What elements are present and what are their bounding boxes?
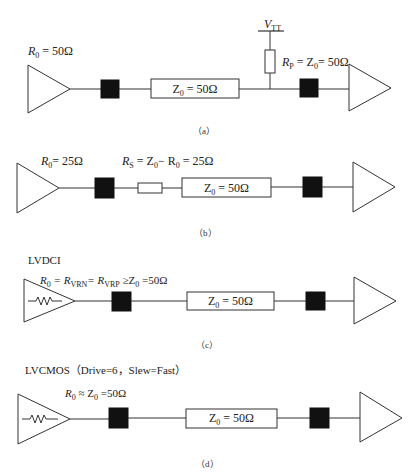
label-text: = R	[87, 274, 104, 286]
label-text: = 50Ω	[184, 82, 218, 96]
package-pin-icon	[303, 177, 322, 197]
panel-a-caption: （a）	[193, 124, 215, 137]
package-pin-icon	[101, 80, 119, 98]
label-text: ≥Z	[120, 274, 136, 286]
label-text: =50Ω	[139, 274, 167, 286]
label-text: =50Ω	[98, 387, 126, 399]
label-text: = 50Ω	[220, 411, 254, 425]
label-text: = Z	[294, 55, 314, 69]
label-symbol: Z	[172, 82, 179, 96]
receiver-buffer-icon	[353, 162, 395, 212]
line-impedance-label: Z0 = 50Ω	[182, 182, 271, 194]
driver-impedance-label: R0 = RVRN= RVRP ≥Z0 =50Ω	[40, 274, 167, 286]
lvdci-title: LVDCI	[28, 254, 61, 266]
panel-b-caption: （b）	[194, 226, 217, 239]
driver-impedance-label: R0 ≈ Z0 =50Ω	[65, 387, 126, 399]
line-impedance-label: Z0 = 50Ω	[187, 295, 274, 307]
label-text: ≈ Z	[76, 387, 94, 399]
label-sub: VRN	[70, 280, 87, 289]
package-pin-icon	[109, 408, 128, 428]
line-impedance-label: Z0 = 50Ω	[186, 412, 277, 424]
series-resistor-icon	[138, 183, 162, 193]
package-pin-icon	[95, 178, 114, 198]
label-text: − R	[158, 154, 176, 168]
package-pin-icon	[112, 292, 131, 311]
label-text: = 50Ω	[318, 55, 349, 69]
label-sub: TT	[271, 24, 281, 33]
package-pin-icon	[306, 292, 325, 310]
package-pin-icon	[300, 79, 318, 97]
vtt-rail-label: VTT	[264, 18, 281, 30]
receiver-buffer-icon	[360, 392, 402, 442]
driver-buffer-icon	[17, 163, 59, 213]
label-text: = Z	[134, 154, 154, 168]
driver-impedance-label: R0 = 50Ω	[28, 45, 73, 57]
panel-d-caption: （d）	[196, 457, 219, 470]
driver-buffer-icon	[28, 65, 70, 113]
panel-a-circuit	[28, 31, 391, 113]
receiver-buffer-icon	[349, 64, 391, 111]
parallel-resistor-icon	[265, 50, 275, 73]
label-text: = 25Ω	[180, 154, 214, 168]
receiver-buffer-icon	[354, 277, 396, 324]
label-text: = 25Ω	[52, 154, 83, 168]
label-symbol: R	[65, 387, 72, 399]
lvcmos-title: LVCMOS（Drive=6，Slew=Fast）	[25, 364, 186, 376]
series-resistor-label: RS = Z0− R0 = 25Ω	[122, 155, 213, 167]
driver-impedance-label: R0= 25Ω	[41, 155, 83, 167]
line-impedance-label: Z0 = 50Ω	[151, 83, 239, 95]
label-symbol: R	[40, 274, 47, 286]
label-text: = 50Ω	[215, 181, 249, 195]
label-sub: VRP	[104, 280, 120, 289]
panel-c-caption: （c）	[196, 338, 218, 351]
label-text: = 50Ω	[219, 294, 253, 308]
parallel-resistor-label: RP = Z0= 50Ω	[282, 56, 349, 68]
label-text: = 50Ω	[39, 44, 73, 58]
label-text: = R	[51, 274, 71, 286]
package-pin-icon	[310, 408, 329, 428]
